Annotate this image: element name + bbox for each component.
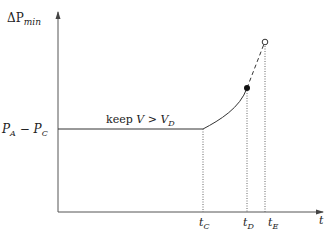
tick-td: tD: [243, 216, 254, 231]
level-label: PA − PC: [1, 122, 48, 138]
dashed-extrapolation: [247, 44, 264, 88]
tick-tc: tC: [199, 216, 210, 231]
open-point: [262, 39, 268, 45]
x-axis-label: t: [319, 214, 324, 227]
tick-te: tE: [268, 216, 278, 231]
segment-label: keep V > VD: [106, 113, 175, 128]
y-axis-label: ΔPmin: [7, 11, 41, 27]
rising-curve: [203, 88, 247, 129]
diagram: ΔPmin t PA − PC keep V > VD tC tD tE: [0, 0, 336, 237]
filled-point: [244, 85, 250, 91]
